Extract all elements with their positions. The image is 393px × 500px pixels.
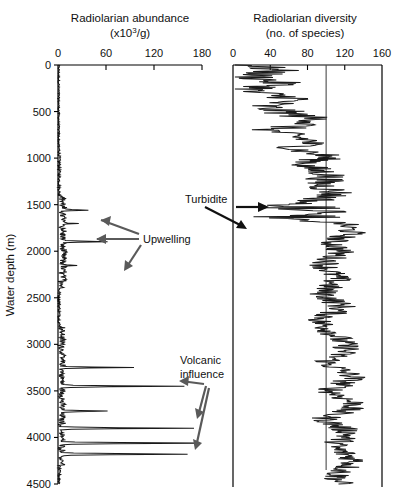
depth-tick-label: 4000 xyxy=(27,431,51,443)
depth-tick-label: 0 xyxy=(45,59,51,71)
upwelling-arrowhead-3 xyxy=(124,260,133,271)
left-title-line1: Radiolarian abundance xyxy=(71,12,189,24)
depth-tick-label: 1000 xyxy=(27,152,51,164)
diversity-tick-label: 160 xyxy=(373,47,391,59)
abundance-plot: 060120180 xyxy=(55,47,211,484)
diversity-tick-label: 120 xyxy=(336,47,354,59)
right-title-line2: (no. of species) xyxy=(266,27,345,39)
depth-tick-label: 2500 xyxy=(27,292,51,304)
figure-svg: Radiolarian abundance (x103/g) Radiolari… xyxy=(0,0,393,500)
upwelling-label: Upwelling xyxy=(143,233,191,245)
diversity-tick-label: 80 xyxy=(301,47,313,59)
depth-tick-label: 4500 xyxy=(27,478,51,490)
diversity-tick-label: 0 xyxy=(230,47,236,59)
left-unit-pre: (x10 xyxy=(110,27,132,39)
turbidite-arrowhead-1 xyxy=(258,202,269,212)
diversity-tick-label: 40 xyxy=(264,47,276,59)
right-title-line1: Radiolarian diversity xyxy=(253,12,357,24)
turbidite-label: Turbidite xyxy=(185,193,227,205)
upwelling-arrowhead-2 xyxy=(96,234,106,244)
volcanic-label-line1: Volcanic xyxy=(180,354,221,366)
abundance-tick-label: 180 xyxy=(193,47,211,59)
left-panel-title: Radiolarian abundance (x103/g) xyxy=(71,12,189,39)
diversity-plot: 04080120160 xyxy=(230,47,391,487)
abundance-tick-label: 0 xyxy=(55,47,61,59)
abundance-tick-label: 120 xyxy=(145,47,163,59)
depth-tick-label: 3500 xyxy=(27,385,51,397)
left-title-line2: (x103/g) xyxy=(110,26,150,39)
upwelling-arrowhead-1 xyxy=(101,216,111,226)
turbidite-arrow-2 xyxy=(205,207,244,227)
abundance-curve xyxy=(58,65,198,484)
depth-tick-label: 500 xyxy=(33,106,51,118)
left-unit-post: /g) xyxy=(137,27,151,39)
radiolarian-depth-figure: Radiolarian abundance (x103/g) Radiolari… xyxy=(0,0,393,500)
diversity-curve xyxy=(235,65,366,484)
depth-axis-label: Water depth (m) xyxy=(4,234,16,317)
abundance-tick-label: 60 xyxy=(100,47,112,59)
depth-tick-label: 3000 xyxy=(27,338,51,350)
depth-tick-label: 1500 xyxy=(27,199,51,211)
right-panel-title: Radiolarian diversity (no. of species) xyxy=(253,12,357,39)
annotation-upwelling: Upwelling xyxy=(96,216,191,271)
annotation-volcanic-influence: Volcanic influence xyxy=(179,354,224,450)
depth-axis: 050010001500200025003000350040004500 xyxy=(27,59,58,490)
depth-tick-label: 2000 xyxy=(27,245,51,257)
annotation-turbidite: Turbidite xyxy=(185,193,269,229)
